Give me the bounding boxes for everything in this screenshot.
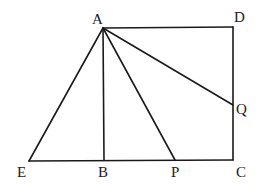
segment-AD <box>103 27 233 28</box>
segment-AB <box>103 28 104 160</box>
label-P: P <box>171 164 179 180</box>
label-D: D <box>234 9 245 25</box>
label-B: B <box>98 164 108 180</box>
geometry-diagram: A D Q C P B E <box>0 0 260 187</box>
segment-AE <box>29 28 103 161</box>
segment-AP <box>103 28 175 160</box>
label-Q: Q <box>236 101 247 117</box>
label-A: A <box>92 11 103 27</box>
segment-CE <box>29 160 233 161</box>
segment-AQ <box>103 28 233 105</box>
label-C: C <box>236 164 246 180</box>
label-E: E <box>17 164 26 180</box>
